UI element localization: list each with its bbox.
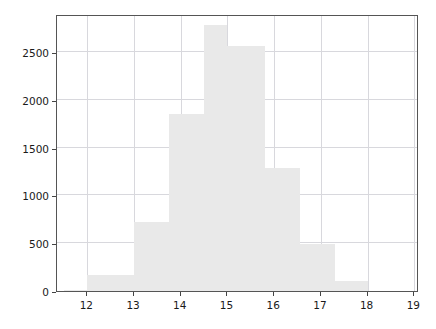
x-tick-label: 14 xyxy=(160,300,200,311)
histogram-figure: 05001000150020002500 1213141516171819 xyxy=(0,0,436,329)
y-tick-label: 2000 xyxy=(3,96,49,107)
plot-area xyxy=(56,15,418,292)
histogram-bar xyxy=(335,281,368,291)
histogram-bar xyxy=(300,244,335,291)
x-tick-mark xyxy=(320,292,321,296)
histogram-bar xyxy=(204,25,227,291)
histogram-bars xyxy=(57,16,417,291)
x-tick-mark xyxy=(226,292,227,296)
y-tick-label: 0 xyxy=(3,287,49,298)
y-tick-label: 1000 xyxy=(3,191,49,202)
x-tick-label: 12 xyxy=(66,300,106,311)
histogram-bar xyxy=(227,46,264,291)
y-tick-label: 1500 xyxy=(3,143,49,154)
x-tick-label: 18 xyxy=(347,300,387,311)
x-tick-label: 13 xyxy=(113,300,153,311)
histogram-bar xyxy=(87,275,134,291)
x-tick-mark xyxy=(180,292,181,296)
x-tick-mark xyxy=(133,292,134,296)
x-tick-mark xyxy=(413,292,414,296)
y-tick-label: 500 xyxy=(3,239,49,250)
histogram-bar xyxy=(134,222,169,291)
x-tick-label: 15 xyxy=(206,300,246,311)
x-tick-mark xyxy=(273,292,274,296)
x-tick-mark xyxy=(86,292,87,296)
y-tick-mark xyxy=(52,292,56,293)
y-tick-label: 2500 xyxy=(3,48,49,59)
histogram-bar xyxy=(64,290,87,291)
x-tick-label: 16 xyxy=(253,300,293,311)
x-tick-label: 17 xyxy=(300,300,340,311)
histogram-bar xyxy=(169,114,204,291)
x-tick-mark xyxy=(367,292,368,296)
histogram-bar xyxy=(265,168,300,291)
x-tick-label: 19 xyxy=(393,300,433,311)
